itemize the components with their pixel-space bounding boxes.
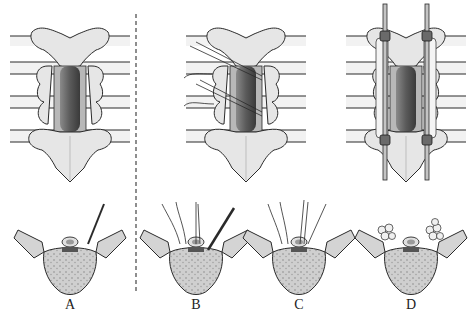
panel-a-axial-view (14, 204, 126, 295)
panel-a-posterior-view (10, 28, 130, 182)
panel-label-b: B (186, 297, 206, 313)
panel-b-axial-view (140, 202, 252, 295)
panel-b-posterior-view (184, 28, 306, 182)
surgical-diagram (0, 0, 472, 317)
panel-d-axial-view (355, 219, 467, 295)
panel-label-a: A (60, 297, 80, 313)
instrument (88, 204, 104, 244)
panel-label-c: C (289, 297, 309, 313)
panel-c-axial-view (243, 200, 355, 295)
panel-d-posterior-view (346, 4, 466, 182)
panel-label-d: D (401, 297, 421, 313)
